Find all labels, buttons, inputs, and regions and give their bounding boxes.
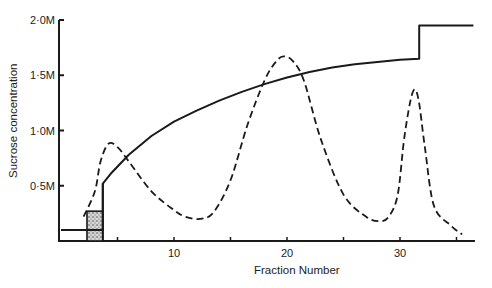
y-axis: 0·5M1·0M1·5M2·0M bbox=[30, 14, 64, 242]
x-axis: 102030 bbox=[58, 237, 475, 259]
stippled-sample-box bbox=[87, 211, 103, 241]
x-axis-title: Fraction Number bbox=[254, 264, 340, 276]
plot-series bbox=[61, 26, 473, 241]
solid-gradient-line bbox=[61, 26, 473, 230]
y-axis-title: Sucrose concentration bbox=[7, 64, 19, 178]
y-tick-label: 1·5M bbox=[30, 69, 55, 81]
stippled-box bbox=[87, 211, 103, 241]
chart: 0·5M1·0M1·5M2·0M 102030 Sucrose concentr… bbox=[0, 0, 492, 288]
y-tick-label: 0·5M bbox=[30, 180, 55, 192]
y-tick-label: 1·0M bbox=[30, 125, 55, 137]
x-tick-label: 30 bbox=[394, 247, 406, 259]
x-tick-label: 10 bbox=[168, 247, 180, 259]
x-tick-label: 20 bbox=[281, 247, 293, 259]
y-tick-label: 2·0M bbox=[30, 14, 55, 26]
